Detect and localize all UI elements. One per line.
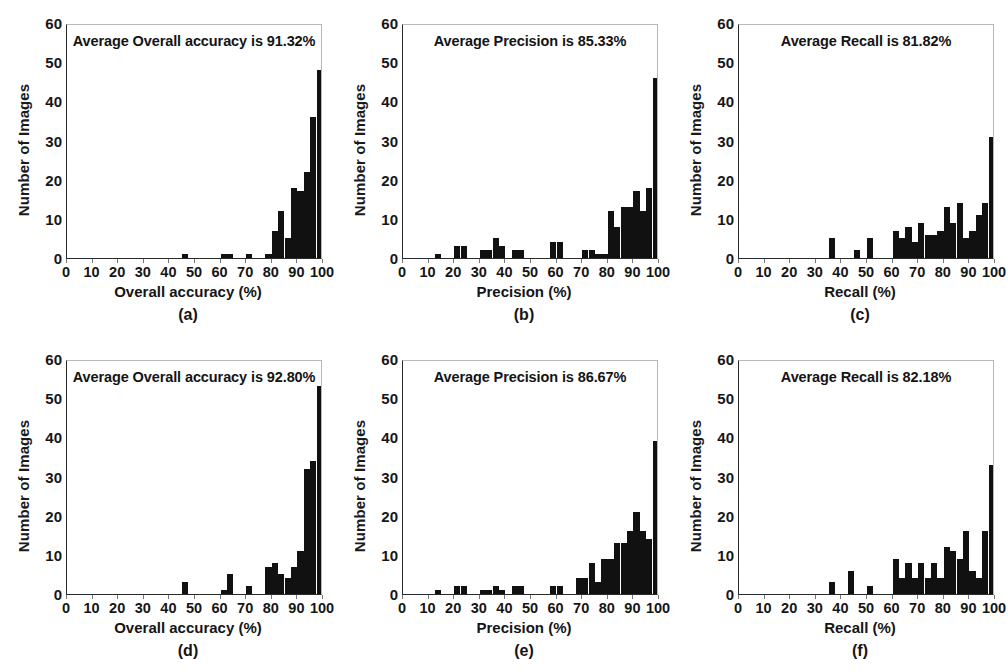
x-axis-ticks: 0102030405060708090100 — [402, 262, 658, 282]
histogram-bar — [582, 578, 588, 594]
x-tick-mark — [658, 259, 659, 263]
x-tick-mark — [66, 259, 67, 263]
y-tick-label: 50 — [708, 57, 734, 69]
histogram-bar — [918, 563, 924, 594]
y-tick-label: 30 — [708, 472, 734, 484]
x-tick-mark — [66, 595, 67, 599]
x-axis-ticks: 0102030405060708090100 — [738, 598, 994, 618]
x-tick-mark — [556, 259, 557, 263]
y-tick-label: 60 — [372, 18, 398, 30]
x-tick-label: 20 — [109, 264, 125, 280]
bars-container — [67, 25, 321, 258]
histogram-bar — [982, 531, 988, 594]
x-tick-mark — [428, 595, 429, 599]
histogram-bar — [272, 231, 278, 258]
histogram-bar — [608, 559, 614, 594]
x-tick-label: 100 — [310, 264, 334, 280]
histogram-bar — [976, 578, 982, 594]
histogram-bar — [601, 254, 607, 258]
x-tick-mark — [994, 259, 995, 263]
histogram-bar — [435, 590, 441, 594]
x-tick-label: 50 — [522, 600, 538, 616]
x-tick-label: 30 — [807, 600, 823, 616]
x-tick-mark — [402, 595, 403, 599]
histogram-bar — [297, 551, 303, 594]
x-tick-label: 40 — [832, 600, 848, 616]
x-tick-label: 80 — [599, 264, 615, 280]
y-tick-label: 60 — [372, 354, 398, 366]
x-tick-mark — [581, 259, 582, 263]
x-tick-label: 50 — [858, 264, 874, 280]
histogram-bar — [493, 586, 499, 594]
histogram-bar — [627, 531, 633, 594]
x-tick-label: 0 — [62, 600, 70, 616]
histogram-bar — [278, 211, 284, 258]
bars-container — [403, 25, 657, 258]
x-tick-mark — [658, 595, 659, 599]
histogram-bar — [512, 586, 518, 594]
x-tick-label: 100 — [646, 264, 670, 280]
y-tick-label: 50 — [36, 57, 62, 69]
x-tick-label: 100 — [982, 264, 1006, 280]
y-tick-label: 0 — [36, 253, 62, 265]
histogram-bar — [246, 254, 252, 258]
histogram-bar — [950, 223, 956, 258]
x-tick-label: 80 — [935, 264, 951, 280]
y-tick-label: 0 — [708, 253, 734, 265]
y-tick-label: 60 — [36, 354, 62, 366]
x-tick-mark — [738, 595, 739, 599]
histogram-bar — [550, 242, 556, 258]
panel-caption: (b) — [376, 306, 672, 324]
x-tick-mark — [92, 595, 93, 599]
histogram-bar — [304, 469, 310, 594]
x-tick-label: 70 — [573, 264, 589, 280]
x-tick-label: 0 — [398, 600, 406, 616]
y-tick-label: 50 — [36, 393, 62, 405]
y-tick-label: 10 — [372, 550, 398, 562]
x-tick-mark — [428, 259, 429, 263]
panel-caption: (e) — [376, 642, 672, 660]
histogram-bar — [931, 563, 937, 594]
histogram-bar — [518, 250, 524, 258]
x-tick-label: 40 — [496, 600, 512, 616]
histogram-bar — [454, 586, 460, 594]
histogram-bar — [601, 559, 607, 594]
x-tick-mark — [917, 595, 918, 599]
histogram-bar — [963, 531, 969, 594]
plot-area-b: Average Precision is 85.33% — [402, 24, 658, 259]
plot-area-c: Average Recall is 81.82% — [738, 24, 994, 259]
y-tick-label: 20 — [372, 511, 398, 523]
x-tick-label: 0 — [734, 264, 742, 280]
x-tick-mark — [943, 259, 944, 263]
x-tick-mark — [168, 259, 169, 263]
histogram-bar — [480, 590, 486, 594]
x-tick-mark — [92, 259, 93, 263]
histogram-bar — [310, 117, 316, 258]
histogram-bar — [582, 250, 588, 258]
histogram-bar — [291, 188, 297, 259]
x-tick-label: 100 — [310, 600, 334, 616]
histogram-bar — [595, 254, 601, 258]
x-tick-mark — [815, 595, 816, 599]
histogram-bar — [461, 246, 467, 258]
histogram-bar — [905, 227, 911, 258]
x-tick-label: 60 — [548, 600, 564, 616]
histogram-bar — [905, 563, 911, 594]
x-tick-mark — [194, 259, 195, 263]
histogram-bar — [969, 571, 975, 595]
x-tick-label: 0 — [398, 264, 406, 280]
x-tick-label: 70 — [909, 264, 925, 280]
panel-a: Number of Images6050403020100Average Ove… — [0, 0, 336, 336]
histogram-bar — [646, 188, 652, 259]
x-tick-label: 10 — [756, 264, 772, 280]
x-tick-mark — [968, 259, 969, 263]
y-tick-label: 40 — [372, 432, 398, 444]
histogram-bar — [317, 70, 322, 258]
x-tick-label: 70 — [909, 600, 925, 616]
bars-container — [739, 25, 993, 258]
histogram-bar — [435, 254, 441, 258]
histogram-bar — [291, 567, 297, 594]
x-tick-label: 10 — [420, 264, 436, 280]
plot-area-a: Average Overall accuracy is 91.32% — [66, 24, 322, 259]
panel-e: Number of Images6050403020100Average Pre… — [336, 336, 672, 672]
